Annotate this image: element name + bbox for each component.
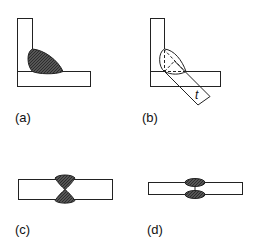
top-weld-bead xyxy=(185,179,205,187)
weld-diagram xyxy=(0,0,258,247)
panel-b-fillet-weld-throat xyxy=(151,19,221,106)
panel-label-d: (d) xyxy=(147,222,163,237)
panel-c-double-v-butt-weld xyxy=(19,175,113,203)
horizontal-plate xyxy=(151,72,221,87)
panel-label-c: (c) xyxy=(15,222,30,237)
bottom-weld-bead xyxy=(185,191,205,199)
panel-label-b: (b) xyxy=(142,110,158,125)
dimension-arrow xyxy=(198,97,210,106)
panel-d-partial-penetration-weld xyxy=(149,179,243,199)
panel-label-a: (a) xyxy=(15,110,31,125)
weld-outline xyxy=(160,49,186,74)
throat-dimension-label: t xyxy=(195,88,198,102)
panel-a-fillet-weld xyxy=(18,19,91,87)
fillet-weld xyxy=(28,49,63,74)
